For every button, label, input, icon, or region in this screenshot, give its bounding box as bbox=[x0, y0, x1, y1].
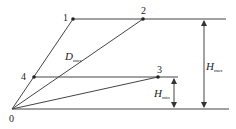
h-max-label: Hmax bbox=[205, 60, 223, 73]
d-max-label: Dmax bbox=[64, 50, 82, 63]
diagram-canvas: 0 1 2 3 4 Dmax Hmax Hmin bbox=[0, 0, 236, 129]
ray-0-to-2 bbox=[12, 19, 143, 109]
point-4-marker bbox=[32, 75, 36, 79]
point-2-marker bbox=[141, 17, 145, 21]
point-2-label: 2 bbox=[141, 5, 146, 16]
ray-0-to-1 bbox=[12, 19, 73, 109]
ray-0-to-3 bbox=[12, 77, 158, 109]
h-min-label: Hmin bbox=[153, 87, 170, 100]
point-3-label: 3 bbox=[157, 64, 162, 75]
point-1-marker bbox=[71, 17, 75, 21]
point-3-marker bbox=[156, 75, 160, 79]
point-0-label: 0 bbox=[9, 113, 14, 124]
point-1-label: 1 bbox=[63, 12, 68, 23]
point-4-label: 4 bbox=[21, 71, 26, 82]
